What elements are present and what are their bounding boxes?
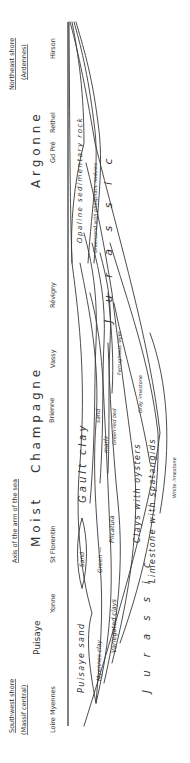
geological-cross-section: Southwest shore (Massif central) Northea… (0, 0, 190, 763)
place-loire-myennes: Loire Myennes (49, 685, 57, 733)
southwest-shore-subtitle: (Massif central) (20, 685, 28, 735)
label-jurassic-southwest: J u r a s s i c (141, 558, 152, 695)
region-moist: M o i s t (29, 499, 43, 547)
label-jurassic-northeast: J u r a s s i c (102, 151, 115, 325)
label-variegated-clays: Variegated clays (110, 598, 118, 653)
label-marls: marls (102, 436, 109, 453)
label-gault-clay: Gault clay (77, 423, 88, 503)
northeast-shore-title: Northeast shore (8, 38, 16, 90)
label-greensand-nodules: Greensand with phosphatic nodules (92, 163, 99, 253)
gray-limestone-boundary (114, 303, 150, 463)
label-sand-lens: Sand (78, 552, 85, 567)
label-sand: sand (94, 408, 101, 423)
label-clays-with-oysters: Clays with oysters (133, 443, 142, 543)
northeast-shore-subtitle: (Ardennes) (20, 44, 28, 80)
label-white-limestone: White limestone (171, 457, 177, 498)
region-puisaye: Puisaye (32, 620, 42, 655)
axis-of-sea-label: Axis of the arm of the sea (11, 479, 19, 563)
label-ferruginous: Ferruginous layer (116, 330, 123, 375)
label-gray-limestone: Gray limestone (137, 375, 144, 413)
label-plicatula: Plicatula (108, 515, 116, 543)
region-champagne: C h a m p a g n e (29, 370, 43, 473)
label-puisaye-sand: Puisaye sand (77, 622, 86, 693)
cross-section-drawing: Southwest shore (Massif central) Northea… (0, 0, 190, 763)
label-myennes-clay: Myennes clay (95, 640, 103, 681)
place-hirson: Hirson (49, 38, 57, 59)
region-argonne: A r g o n n e (29, 114, 43, 188)
label-green-red-bed: Green-red bed (111, 408, 117, 445)
place-brienne: Brienne (48, 398, 56, 423)
place-rethel: Rethel (49, 112, 57, 133)
place-vassy: Vassy (49, 349, 57, 368)
place-revigny: Révigny (49, 282, 57, 308)
label-green: Green — (96, 547, 103, 573)
place-st-florentin: St Florentin (49, 526, 57, 563)
place-yonne: Yonne (49, 594, 57, 614)
place-gd-pre: Gd Pré (49, 141, 57, 163)
label-opaline: Opaline sedimentary rock (76, 117, 84, 243)
southwest-shore-title: Southwest shore (8, 679, 16, 733)
